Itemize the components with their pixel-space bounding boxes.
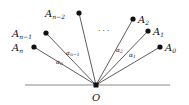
angle-label-alpha-1: α1 [129, 51, 136, 59]
origin-label: O [92, 92, 100, 103]
point-label-an: An [11, 42, 23, 54]
point-dot-a1 [145, 28, 150, 33]
point-dot-an-2 [76, 10, 81, 15]
ray-an-2 [79, 13, 96, 85]
point-label-a1: A1 [152, 26, 164, 38]
point-label-a2: A2 [137, 14, 149, 26]
angle-label-alpha-n: αn [56, 58, 63, 66]
ray-a0 [96, 47, 160, 85]
rays-diagram: O An An−1 An−2 A2 A1 A0 · · · αn αn−1 α2… [0, 0, 189, 105]
point-dot-an [31, 44, 36, 49]
angle-label-alpha-n-1: αn−1 [66, 49, 80, 57]
angle-label-alpha-2: α2 [116, 46, 123, 54]
point-dot-an-1 [43, 30, 48, 35]
point-label-a0: A0 [164, 42, 176, 54]
point-dot-a2 [130, 16, 135, 21]
point-dot-a0 [157, 44, 162, 49]
point-label-an-2: An−2 [44, 8, 65, 20]
ellipsis: · · · [98, 27, 109, 35]
point-label-an-1: An−1 [11, 28, 32, 40]
origin-marker [94, 83, 99, 88]
